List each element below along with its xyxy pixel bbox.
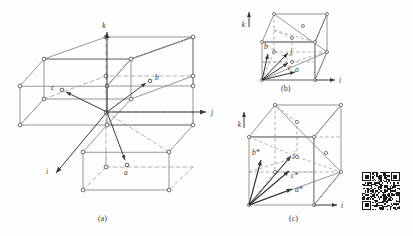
panel-c-label-b-star: b*	[252, 148, 260, 157]
panel-b-label-i: i	[339, 76, 341, 85]
panel-b-vector-c	[262, 63, 288, 80]
panel-a-vector-a	[107, 112, 125, 160]
panel-a-label-i: i	[46, 167, 48, 176]
panel-b-vector-j	[262, 53, 288, 80]
panel-c-label-c-star: c*	[291, 171, 298, 180]
caption-b: (b)	[281, 84, 290, 93]
panel-b-label-k: k	[242, 20, 246, 29]
panel-a-i-axis	[56, 112, 107, 173]
panel-a-label-k: k	[102, 21, 106, 30]
panel-a-vector-b	[107, 83, 146, 112]
panel-c-label-k: k	[238, 120, 242, 129]
panel-c-vector-c-star	[249, 171, 289, 205]
panel-a-label-b: b	[155, 73, 159, 82]
panel-a-vector-c	[66, 92, 107, 112]
panel-a-label-a: a	[124, 168, 128, 177]
panel-a-label-j: j	[210, 108, 213, 117]
panel-c: k i b* j c* a*	[238, 103, 343, 210]
figure-svg: k j i b c a	[0, 0, 413, 236]
figure-container: k j i b c a	[0, 0, 413, 236]
qr-code[interactable]	[362, 172, 400, 210]
panel-c-label-a-star: a*	[295, 185, 303, 194]
panel-b: k i b j c a	[242, 12, 341, 85]
caption-a: (a)	[98, 214, 107, 223]
panel-b-label-b: b	[264, 42, 268, 51]
panel-b-label-j: j	[289, 47, 292, 56]
panel-c-label-i: i	[341, 201, 343, 210]
panel-b-label-a: a	[295, 65, 299, 74]
caption-c: (c)	[289, 214, 298, 223]
panel-a-label-c: c	[51, 83, 55, 92]
panel-c-label-j: j	[292, 150, 295, 159]
panel-a: k j i b c a	[18, 21, 213, 192]
